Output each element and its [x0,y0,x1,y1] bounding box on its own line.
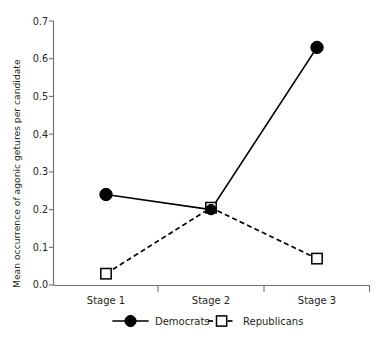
y-tick-label-0.7: 0.7 [33,16,48,27]
legend-label-republicans: Republicans [243,316,303,327]
data-point-republicans-stage-3 [312,253,322,263]
data-point-democrats-stage-1 [100,188,112,200]
chart-legend: Democrats Republicans [113,315,303,326]
x-category-label-stage-1: Stage 1 [87,295,125,306]
legend-marker-open-square-icon [217,316,227,326]
series-line-democrats [106,47,317,209]
x-category-label-stage-3: Stage 3 [298,295,336,306]
y-tick-label-0.5: 0.5 [33,91,48,102]
legend-marker-filled-circle-icon [125,315,136,326]
y-tick-label-0.1: 0.1 [33,242,48,253]
chart-figure: Mean occurrence of agonic getures per ca… [0,0,382,339]
data-point-republicans-stage-1 [101,269,111,279]
y-tick-label-0.3: 0.3 [33,166,48,177]
series-line-republicans [106,208,317,274]
y-axis-title: Mean occurrence of agonic getures per ca… [11,59,22,288]
y-tick-label-0.4: 0.4 [33,129,48,140]
data-point-democrats-stage-2 [206,204,216,214]
y-tick-label-0.2: 0.2 [33,204,48,215]
legend-label-democrats: Democrats [155,316,210,327]
data-point-democrats-stage-3 [311,41,323,53]
y-tick-label-0.0: 0.0 [33,279,48,290]
x-category-label-stage-2: Stage 2 [192,295,230,306]
line-chart: Mean occurrence of agonic getures per ca… [0,0,382,339]
y-tick-label-0.6: 0.6 [33,53,48,64]
